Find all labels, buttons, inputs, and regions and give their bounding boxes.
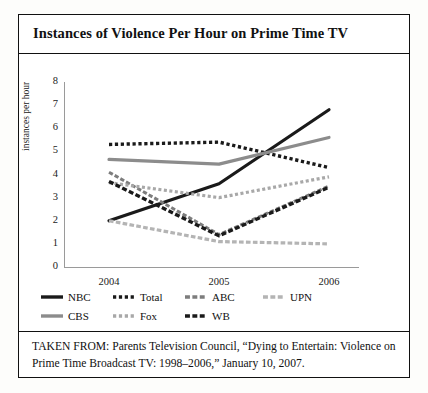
- legend-swatch-icon: [263, 291, 285, 302]
- legend-label: UPN: [290, 291, 312, 303]
- legend-swatch-icon: [41, 310, 63, 321]
- chart-title: Instances of Violence Per Hour on Prime …: [33, 25, 399, 42]
- series-line-fox: [109, 177, 329, 198]
- legend-item-abc[interactable]: ABC: [185, 291, 235, 303]
- figure-screenshot: Instances of Violence Per Hour on Prime …: [0, 0, 428, 393]
- figure-container: Instances of Violence Per Hour on Prime …: [18, 14, 410, 378]
- plot-area: instances per hour 012345678 20042005200…: [19, 55, 409, 283]
- legend-item-nbc[interactable]: NBC: [41, 291, 91, 303]
- line-series-group: [19, 55, 409, 283]
- legend-swatch-icon: [185, 291, 207, 302]
- legend-item-cbs[interactable]: CBS: [41, 310, 89, 322]
- legend-item-upn[interactable]: UPN: [263, 291, 312, 303]
- source-divider: [19, 331, 409, 332]
- legend-item-wb[interactable]: WB: [185, 310, 230, 322]
- legend-label: WB: [212, 310, 230, 322]
- source-citation: TAKEN FROM: Parents Television Council, …: [32, 339, 397, 372]
- legend-label: ABC: [212, 291, 235, 303]
- legend-swatch-icon: [113, 310, 135, 321]
- legend-label: CBS: [68, 310, 89, 322]
- series-line-upn: [109, 221, 329, 244]
- legend-row: NBCTotalABCUPN: [41, 287, 391, 306]
- legend-label: Fox: [140, 310, 157, 322]
- chart-legend: NBCTotalABCUPNCBSFoxWB: [41, 287, 391, 325]
- legend-item-total[interactable]: Total: [113, 291, 162, 303]
- legend-swatch-icon: [185, 310, 207, 321]
- legend-label: NBC: [68, 291, 91, 303]
- legend-item-fox[interactable]: Fox: [113, 310, 157, 322]
- legend-swatch-icon: [113, 291, 135, 302]
- legend-label: Total: [140, 291, 162, 303]
- legend-row: CBSFoxWB: [41, 306, 391, 325]
- legend-swatch-icon: [41, 291, 63, 302]
